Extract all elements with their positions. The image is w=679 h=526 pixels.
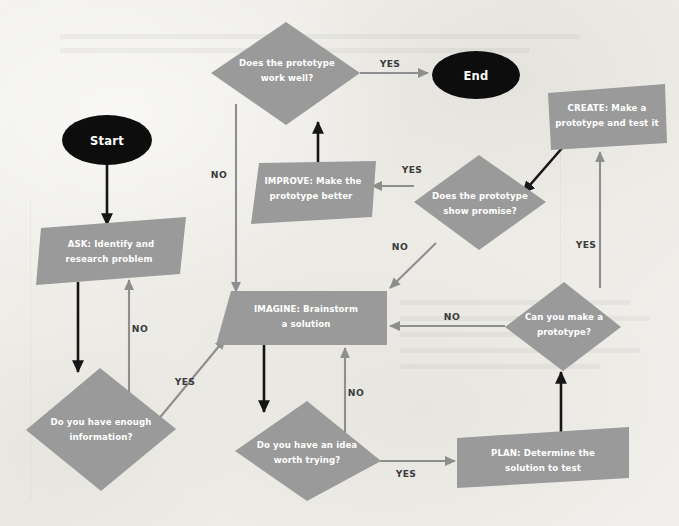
node-enough-information-line1: Do you have enough (50, 417, 151, 427)
node-improve-line2: prototype better (270, 191, 354, 201)
node-can-make-prototype-line2: prototype? (537, 327, 591, 337)
edge-label-enough-info-no: NO (132, 323, 148, 334)
node-plan-line2: solution to test (505, 463, 581, 473)
node-work-well-line1: Does the prototype (239, 58, 335, 68)
node-create[interactable]: CREATE: Make a prototype and test it (548, 84, 667, 150)
node-imagine-line1: IMAGINE: Brainstorm (254, 304, 358, 314)
node-show-promise-line1: Does the prototype (432, 191, 528, 201)
node-create-line2: prototype and test it (555, 118, 658, 128)
edge-label-work-well-yes: YES (379, 58, 401, 69)
node-work-well-line2: work well? (261, 73, 313, 83)
node-ask-line1: ASK: Identify and (68, 239, 154, 249)
node-ask[interactable]: ASK: Identify and research problem (36, 217, 186, 285)
edge-label-work-well-no: NO (211, 169, 227, 180)
node-start[interactable]: Start (62, 115, 152, 165)
node-end[interactable]: End (432, 51, 520, 99)
node-idea-worth-trying-line2: worth trying? (274, 455, 341, 465)
node-create-line1: CREATE: Make a (568, 103, 647, 113)
node-show-promise[interactable]: Does the prototype show promise? (414, 155, 546, 250)
node-improve-line1: IMPROVE: Make the (264, 176, 361, 186)
node-end-label: End (463, 69, 488, 83)
node-plan-line1: PLAN: Determine the (491, 448, 595, 458)
edge-label-idea-worth-no: NO (348, 387, 364, 398)
edge-label-can-prototype-no: NO (444, 311, 460, 322)
flowchart-canvas: Start End ASK: Identify and research pro… (0, 0, 679, 526)
edge-label-show-promise-no: NO (392, 241, 408, 252)
node-improve[interactable]: IMPROVE: Make the prototype better (251, 161, 376, 224)
node-idea-worth-trying[interactable]: Do you have an idea worth trying? (235, 401, 381, 501)
edge-label-show-promise-yes: YES (401, 164, 423, 175)
node-imagine[interactable]: IMAGINE: Brainstorm a solution (216, 291, 387, 345)
edge-label-idea-worth-yes: YES (395, 468, 417, 479)
node-show-promise-line2: show promise? (443, 206, 517, 216)
node-imagine-line2: a solution (282, 319, 331, 329)
edge-label-can-prototype-yes: YES (575, 239, 597, 250)
node-work-well[interactable]: Does the prototype work well? (211, 22, 360, 125)
node-enough-information[interactable]: Do you have enough information? (26, 368, 176, 491)
edge-create-to-show-promise (523, 147, 563, 193)
node-can-make-prototype-line1: Can you make a (525, 312, 603, 322)
node-plan[interactable]: PLAN: Determine the solution to test (457, 427, 629, 488)
node-enough-information-line2: information? (70, 432, 133, 442)
node-ask-line2: research problem (65, 254, 152, 264)
node-idea-worth-trying-line1: Do you have an idea (257, 440, 358, 450)
edge-label-enough-info-yes: YES (174, 376, 196, 387)
node-start-label: Start (90, 134, 124, 148)
node-can-make-prototype[interactable]: Can you make a prototype? (505, 282, 621, 371)
